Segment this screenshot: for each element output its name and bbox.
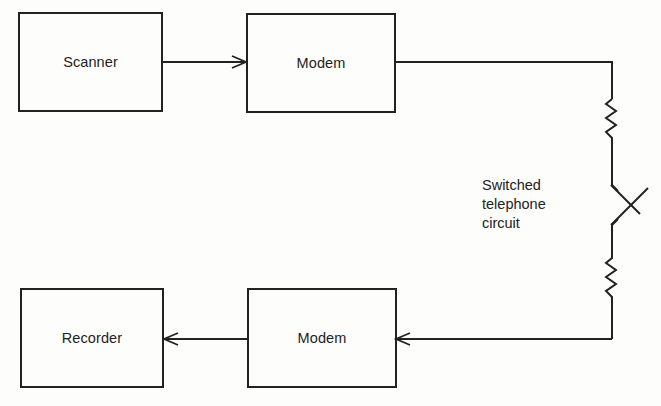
channel-label: Switched telephone circuit bbox=[482, 176, 546, 233]
block-modem-receive: Modem bbox=[247, 288, 397, 388]
block-label: Modem bbox=[298, 330, 347, 346]
block-label: Modem bbox=[297, 55, 346, 71]
connector-scanner-to-modem bbox=[162, 56, 246, 68]
connector-modem-to-recorder bbox=[164, 333, 248, 345]
connector-modem-to-circuit bbox=[395, 62, 612, 99]
resistor-icon-lower bbox=[606, 219, 618, 339]
block-label: Scanner bbox=[63, 54, 118, 70]
channel-label-line: circuit bbox=[482, 214, 546, 233]
channel-label-line: telephone bbox=[482, 195, 546, 214]
channel-label-line: Switched bbox=[482, 176, 546, 195]
switch-cross-icon bbox=[611, 185, 648, 225]
block-modem-transmit: Modem bbox=[246, 13, 396, 113]
resistor-icon-upper bbox=[606, 99, 618, 191]
block-recorder: Recorder bbox=[20, 288, 164, 388]
block-label: Recorder bbox=[62, 330, 122, 346]
connector-circuit-to-modem bbox=[396, 333, 612, 345]
block-scanner: Scanner bbox=[18, 12, 163, 112]
